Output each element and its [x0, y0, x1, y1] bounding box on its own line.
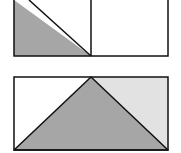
geometry-diagram: [0, 0, 181, 153]
bottom-panel: [14, 77, 168, 150]
top-panel: [14, 0, 168, 56]
